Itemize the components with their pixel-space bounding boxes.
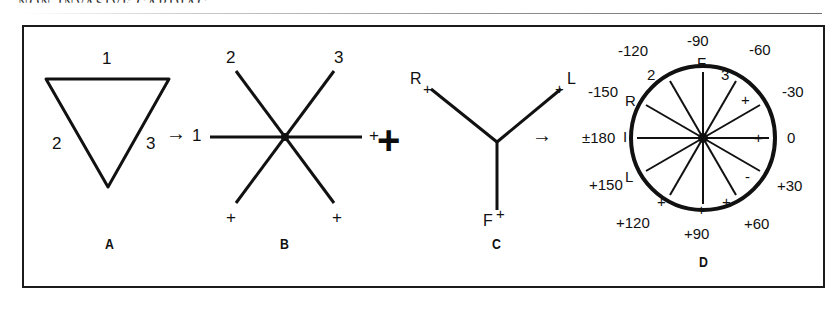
running-header: NON-INVASIVE CARDIAC [18, 0, 208, 12]
lead-label-2: 2 [647, 67, 655, 82]
lead-label-avf: F [697, 55, 706, 70]
panel-a-letter: A [105, 235, 114, 252]
augmented-y-svg [409, 27, 589, 267]
triangle-shape [46, 79, 169, 187]
polarity-minus-plus30: - [745, 169, 750, 184]
degree-label-plus150: +150 [589, 177, 623, 192]
triaxial-star-svg [194, 27, 384, 267]
panel-b-label-1: 1 [192, 127, 201, 144]
panel-a-einthoven-triangle: 1 2 3 A [24, 27, 199, 267]
polarity-plus-plus60: + [722, 194, 731, 209]
plus-b-and-c: + [377, 120, 400, 160]
panel-b-letter: B [280, 235, 289, 252]
hexaxial-centre [698, 133, 708, 143]
panel-d-hexaxial-system: -90 -60 -30 0 +30 +60 +90 +120 +150 ±180… [569, 27, 827, 277]
panel-b-label-2: 2 [226, 49, 235, 66]
panel-b-sign-lower-right: + [332, 209, 342, 226]
degree-label-minus150: -150 [588, 84, 618, 99]
figure-frame: 1 2 3 A → 2 3 1 + + + B [22, 25, 825, 288]
panel-b-triaxial-standard: 2 3 1 + + + B [194, 27, 384, 267]
figure-page: NON-INVASIVE CARDIAC 1 2 3 A → [0, 0, 839, 315]
axis-centre [281, 133, 289, 141]
panel-a-label-1: 1 [102, 50, 111, 67]
degree-label-plusminus180: ±180 [582, 130, 615, 145]
panel-d-letter: D [699, 253, 708, 270]
panel-a-label-2: 2 [52, 135, 61, 152]
panel-c-sign-r: + [423, 81, 432, 96]
axis-avr [431, 89, 497, 142]
panel-c-label-f: F [483, 213, 493, 229]
panel-c-triaxial-augmented: R + + L F + C [409, 27, 589, 267]
panel-c-letter: C [492, 235, 501, 252]
degree-label-zero: 0 [787, 130, 795, 145]
lead-label-avl: L [625, 169, 633, 184]
degree-label-minus60: -60 [749, 42, 771, 57]
arrow-c-to-d: → [532, 124, 552, 147]
panel-a-label-3: 3 [146, 135, 155, 152]
degree-label-minus120: -120 [618, 43, 648, 58]
panel-c-sign-f: + [496, 206, 505, 221]
degree-label-plus30: +30 [777, 178, 802, 193]
lead-label-1: I [623, 129, 627, 144]
lead-label-3: 3 [721, 67, 729, 82]
polarity-plus-zero: + [754, 130, 763, 145]
panel-b-sign-lower-left: + [226, 209, 236, 226]
polarity-plus-plus120: + [657, 194, 666, 209]
arrow-a-to-b: → [166, 122, 186, 145]
panel-c-sign-l: + [555, 81, 564, 96]
lead-label-avr: R [625, 93, 636, 108]
panel-b-label-3: 3 [334, 49, 343, 66]
degree-label-minus30: -30 [782, 84, 804, 99]
header-rule [22, 13, 822, 14]
polarity-plus-minus30: + [741, 92, 750, 107]
triangle-svg [24, 27, 199, 267]
polarity-plus-plus90: + [697, 202, 706, 217]
degree-label-plus60: +60 [744, 216, 769, 231]
degree-label-minus90: -90 [687, 33, 709, 48]
degree-label-plus90: +90 [684, 226, 709, 241]
degree-label-plus120: +120 [616, 215, 650, 230]
panel-c-label-r: R [410, 71, 422, 87]
